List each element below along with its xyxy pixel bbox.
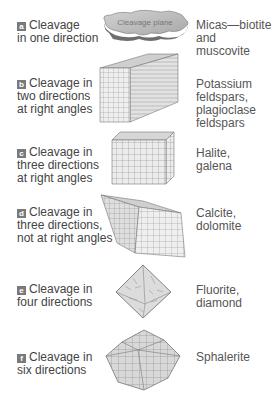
mica-sheet-shape: Cleavage plane [99,9,191,45]
badge-c: c [17,149,26,158]
octahedron-shape [115,264,173,320]
description-e: eCleavage in four directions [17,283,92,309]
badge-b: b [17,80,26,89]
minerals-c: Halite, galena [196,147,232,173]
rhombohedron-shape [99,193,189,263]
badge-d: d [17,209,26,218]
description-c: cCleavage in three directions at right a… [17,146,99,185]
cleavage-plane-label: Cleavage plane [117,18,173,27]
minerals-d: Calcite, dolomite [196,207,241,233]
minerals-b: Potassium feldspars, plagioclase feldspa… [196,78,256,130]
minerals-e: Fluorite, diamond [196,284,242,310]
description-b: bCleavage in two directions at right ang… [17,77,92,116]
badge-e: e [17,286,26,295]
prism-shape [98,52,184,128]
badge-f: f [17,354,26,363]
dodecahedron-shape [104,328,182,392]
cube-shape [110,130,176,186]
description-f: fCleavage in six directions [17,351,92,377]
minerals-f: Sphalerite [196,351,250,364]
description-a: aCleavage in one direction [17,19,98,45]
minerals-a: Micas—biotite and muscovite [196,19,273,58]
badge-a: a [17,22,26,31]
